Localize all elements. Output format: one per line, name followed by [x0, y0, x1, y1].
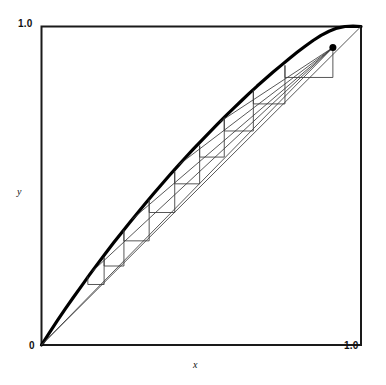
figure-container: 1.0 0 1.0 y x — [0, 0, 386, 385]
series-fan-chord-3 — [133, 48, 333, 219]
series-diagonal-identity-line — [42, 27, 362, 346]
series-fan-chord-2 — [93, 48, 333, 272]
origin-label: 0 — [29, 340, 35, 351]
marker-layer — [329, 44, 336, 51]
y-axis-title: y — [17, 186, 21, 197]
x-axis-title: x — [193, 359, 197, 370]
series-layer — [42, 26, 362, 345]
y-axis-max-label: 1.0 — [18, 18, 33, 29]
x-axis-max-label: 1.0 — [344, 340, 359, 351]
series-staircase-cobweb — [88, 48, 333, 285]
fixed-point-dot — [329, 44, 336, 51]
series-fan-chord-4 — [179, 48, 333, 165]
series-fan-chord-1 — [42, 48, 333, 345]
plot-canvas — [0, 0, 386, 385]
